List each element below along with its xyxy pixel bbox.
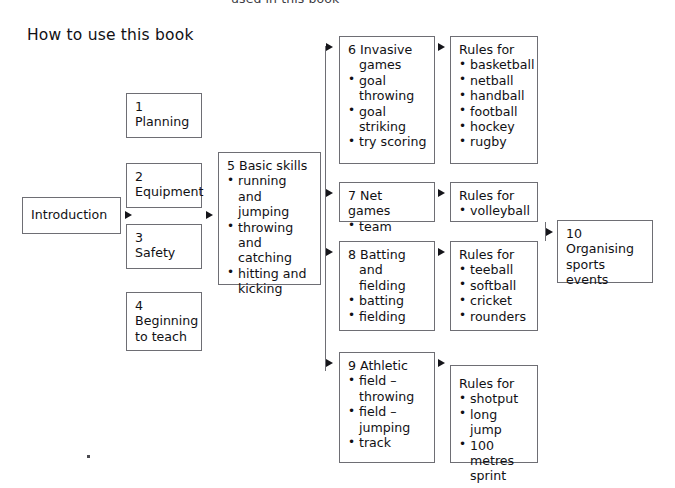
node-1-planning[interactable]: 1 Planning [126,93,202,138]
arrow-basic-skills-to-athletic [326,359,333,367]
scan-artifact [87,455,90,458]
node-3-safety[interactable]: 3 Safety [126,224,202,269]
node-rules-batting-list: teeball softball cricket rounders [459,262,531,324]
top-caption: used in this book [231,0,339,6]
node-4-header: 4 Beginning to teach [135,298,195,344]
list-item: try scoring [348,134,428,149]
list-item: netball [459,73,531,88]
list-item: field – throwing [348,373,428,404]
list-item: team [348,219,428,234]
list-item: goal striking [348,104,428,135]
node-4-beginning-to-teach[interactable]: 4 Beginning to teach [126,292,202,351]
node-9-athletic[interactable]: 9 Athletic field – throwing field – jump… [339,352,435,463]
node-rules-invasive-list: basketball netball handball football hoc… [459,57,531,149]
list-item: running and jumping [227,173,314,219]
arrow-net-games-to-rules [438,189,445,197]
node-1-header: 1 Planning [135,99,195,130]
arrow-rules-to-organising-sports-events [546,228,553,236]
list-item: hockey [459,119,531,134]
node-5-list: running and jumping throwing and catchin… [227,173,314,296]
node-2-header: 2 Equipment [135,169,195,200]
list-item: goal throwing [348,73,428,104]
list-item: rounders [459,309,531,324]
connector-basic-skills-trunk [325,46,326,371]
list-item: cricket [459,293,531,308]
node-rules-athletic[interactable]: Rules for shotput long jump 100 metres s… [450,365,538,463]
arrow-basic-skills-to-batting-fielding [326,248,333,256]
node-7-header: 7 Net games [348,188,428,219]
list-item: long jump [459,407,531,438]
arrow-athletic-to-rules [438,359,445,367]
list-item: teeball [459,262,531,277]
node-rules-athletic-list: shotput long jump 100 metres sprint [459,391,531,483]
arrow-batting-fielding-to-rules [438,248,445,256]
arrow-introduction-to-chapters [125,211,132,219]
node-7-net-games[interactable]: 7 Net games team [339,182,435,222]
node-rules-athletic-header: Rules for [459,376,531,391]
list-item: shotput [459,391,531,406]
list-item: fielding [348,309,428,324]
arrow-basic-skills-to-invasive-games [326,43,333,51]
list-item: throwing and catching [227,220,314,266]
node-rules-invasive-header: Rules for [459,42,531,57]
node-rules-net-games[interactable]: Rules for volleyball [450,182,538,222]
node-6-list: goal throwing goal striking try scoring [348,73,428,150]
node-rules-net-list: volleyball [459,203,531,218]
node-6-invasive-games[interactable]: 6 Invasive games goal throwing goal stri… [339,36,435,164]
node-9-list: field – throwing field – jumping track [348,373,428,450]
arrow-invasive-games-to-rules [438,43,445,51]
node-10-organising-sports-events[interactable]: 10 Organising sports events [557,220,653,283]
node-5-basic-skills[interactable]: 5 Basic skills running and jumping throw… [218,152,321,285]
node-3-header: 3 Safety [135,230,195,261]
arrow-chapters-to-basic-skills [206,211,213,219]
node-7-list: team [348,219,428,234]
flowchart-page: used in this book How to use this book I… [0,0,675,488]
arrow-basic-skills-to-net-games [326,189,333,197]
node-8-header: 8 Batting and fielding [348,247,428,293]
node-rules-net-header: Rules for [459,188,531,203]
list-item: handball [459,88,531,103]
list-item: rugby [459,134,531,149]
node-8-list: batting fielding [348,293,428,324]
node-rules-invasive-games[interactable]: Rules for basketball netball handball fo… [450,36,538,164]
node-2-equipment[interactable]: 2 Equipment [126,163,202,208]
node-10-header: 10 Organising sports events [566,226,646,288]
node-introduction[interactable]: Introduction [22,197,121,234]
page-title: How to use this book [27,26,194,44]
node-rules-batting-header: Rules for [459,247,531,262]
node-8-batting-and-fielding[interactable]: 8 Batting and fielding batting fielding [339,241,435,331]
list-item: 100 metres sprint [459,438,531,484]
list-item: field – jumping [348,404,428,435]
list-item: softball [459,278,531,293]
list-item: football [459,104,531,119]
node-introduction-header: Introduction [31,207,114,222]
list-item: batting [348,293,428,308]
list-item: hitting and kicking [227,266,314,297]
list-item: volleyball [459,203,531,218]
node-6-header: 6 Invasive games [348,42,428,73]
node-9-header: 9 Athletic [348,358,428,373]
node-rules-batting-fielding[interactable]: Rules for teeball softball cricket round… [450,241,538,331]
node-5-header: 5 Basic skills [227,158,314,173]
list-item: track [348,435,428,450]
list-item: basketball [459,57,531,72]
